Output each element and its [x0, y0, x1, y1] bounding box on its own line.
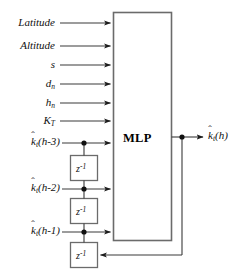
hat-accent-h2: ˆ: [31, 177, 34, 187]
input-label-dn-subscript: n: [51, 82, 55, 91]
delay-exponent-2: -1: [80, 205, 86, 214]
input-label-khat-h2: ˆkt(h-2): [0, 182, 60, 194]
khat-arg-h1: (h-1): [38, 224, 60, 236]
khat-symbol-h3: ˆk: [31, 136, 36, 147]
tap-dot-2: [81, 186, 86, 191]
input-label-dn: dn: [0, 78, 55, 90]
khat-symbol-output: ˆk: [208, 130, 213, 141]
khat-symbol-h2: ˆk: [31, 182, 36, 193]
delay-exponent-1: -1: [80, 162, 86, 171]
tap-dot-1: [81, 140, 86, 145]
delay-label-1: z-1: [76, 163, 86, 174]
khat-symbol-h1: ˆk: [31, 225, 36, 236]
hat-accent-output: ˆ: [208, 125, 211, 135]
input-label-hn-subscript: n: [51, 101, 55, 110]
input-label-latitude: Latitude: [0, 17, 55, 28]
input-label-kt-subscript: T: [51, 119, 55, 128]
input-arrow-group: [60, 23, 111, 121]
mlp-box: [114, 13, 172, 241]
input-label-altitude: Altitude: [0, 40, 55, 51]
input-label-hn: hn: [0, 97, 55, 109]
khat-arg-h3: (h-3): [38, 135, 60, 147]
delay-label-2: z-1: [76, 206, 86, 217]
khat-arg-h2: (h-2): [38, 181, 60, 193]
output-label: ˆkt(h): [208, 130, 228, 142]
delay-label-3: z-1: [76, 250, 86, 261]
hat-accent-h3: ˆ: [31, 131, 34, 141]
input-label-kt: KT: [0, 115, 55, 127]
input-label-khat-h1: ˆkt(h-1): [0, 225, 60, 237]
hat-accent-h1: ˆ: [31, 220, 34, 230]
output-junction-dot: [179, 134, 184, 139]
delay-exponent-3: -1: [80, 249, 86, 258]
mlp-label: MLP: [123, 131, 152, 146]
mlp-block-diagram: Latitude Altitude s dn hn KT ˆkt(h-3) ˆk…: [0, 0, 244, 275]
tap-dot-3: [81, 229, 86, 234]
input-label-s: s: [0, 59, 55, 70]
input-label-kt-base: K: [43, 114, 50, 126]
khat-arg-output: (h): [215, 129, 228, 141]
input-label-khat-h3: ˆkt(h-3): [0, 136, 60, 148]
